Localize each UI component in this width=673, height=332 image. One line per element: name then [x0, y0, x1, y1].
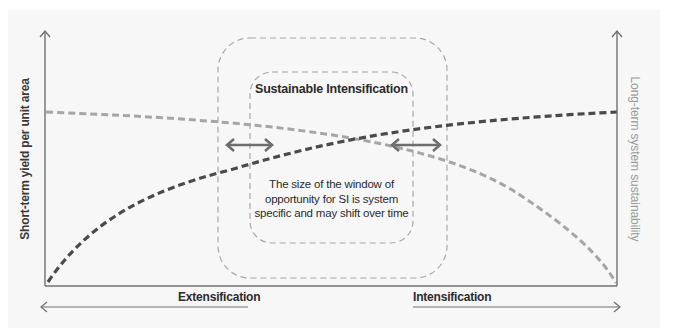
window-note: The size of the window of opportunity fo…	[250, 177, 413, 221]
left-double-arrow-icon	[227, 139, 272, 151]
diagram-title: Sustainable Intensification	[250, 82, 413, 96]
extensification-label: Extensification	[178, 290, 260, 304]
outer-window-box	[218, 38, 447, 278]
diagram-canvas	[0, 0, 673, 332]
left-axis-label: Short-term yield per unit area	[18, 54, 32, 264]
intensification-label: Intensification	[413, 290, 491, 304]
right-axis-label: Long-term system sustainability	[628, 54, 642, 264]
